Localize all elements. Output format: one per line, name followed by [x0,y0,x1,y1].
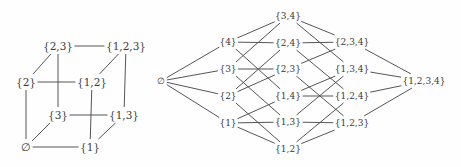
edge-layer [0,0,461,167]
edge [370,72,402,77]
node-label: {1,3,4} [333,65,370,74]
edge [301,49,335,63]
node-label: {3} [46,110,69,121]
edge [33,54,51,74]
edge [301,122,334,123]
node-label: {1,2} [274,145,303,154]
node-label: ∅ [156,77,167,86]
node-label: {1,4} [274,92,303,101]
node-label: {2,3,4} [333,38,370,47]
edge [370,86,402,93]
node-label: {1} [78,142,101,153]
edge [301,21,334,35]
edge [32,123,50,141]
edge [365,49,411,74]
edge [237,102,275,119]
edge [237,42,275,43]
node-label: {1,3} [107,110,140,121]
edge [301,42,334,43]
node-label: {2,3} [41,41,74,52]
node-label: {3} [218,65,238,74]
edge [124,54,126,107]
node-label: {2} [218,92,238,101]
node-label: {2,3} [274,65,303,74]
edge [237,122,275,123]
node-label: {1,3} [274,118,303,127]
node-label: {2} [14,77,37,88]
node-label: {3,4} [274,12,303,21]
edge [301,76,335,90]
node-label: {1,2,4} [333,92,370,101]
edge [167,47,220,78]
node-label: {1,2,3,4} [401,77,447,86]
node-label: {4} [218,38,238,47]
edge [167,82,220,94]
edge [301,130,334,144]
node-label: ∅ [20,142,33,153]
node-label: {1,2,3} [104,41,147,52]
node-label: {2,4} [274,39,303,48]
node-label: {1} [218,119,238,128]
edge [100,54,119,74]
node-label: {1,2,3} [333,119,370,128]
edge [167,71,220,80]
hasse-diagram-figure: ∅{1}{2}{3}{1,2}{1,3}{2,3}{1,2,3} ∅{4}{3}… [0,0,461,167]
edge [99,123,116,139]
edge [167,85,220,118]
node-label: {1,2} [75,77,108,88]
edge [237,127,275,143]
edge [237,22,275,38]
